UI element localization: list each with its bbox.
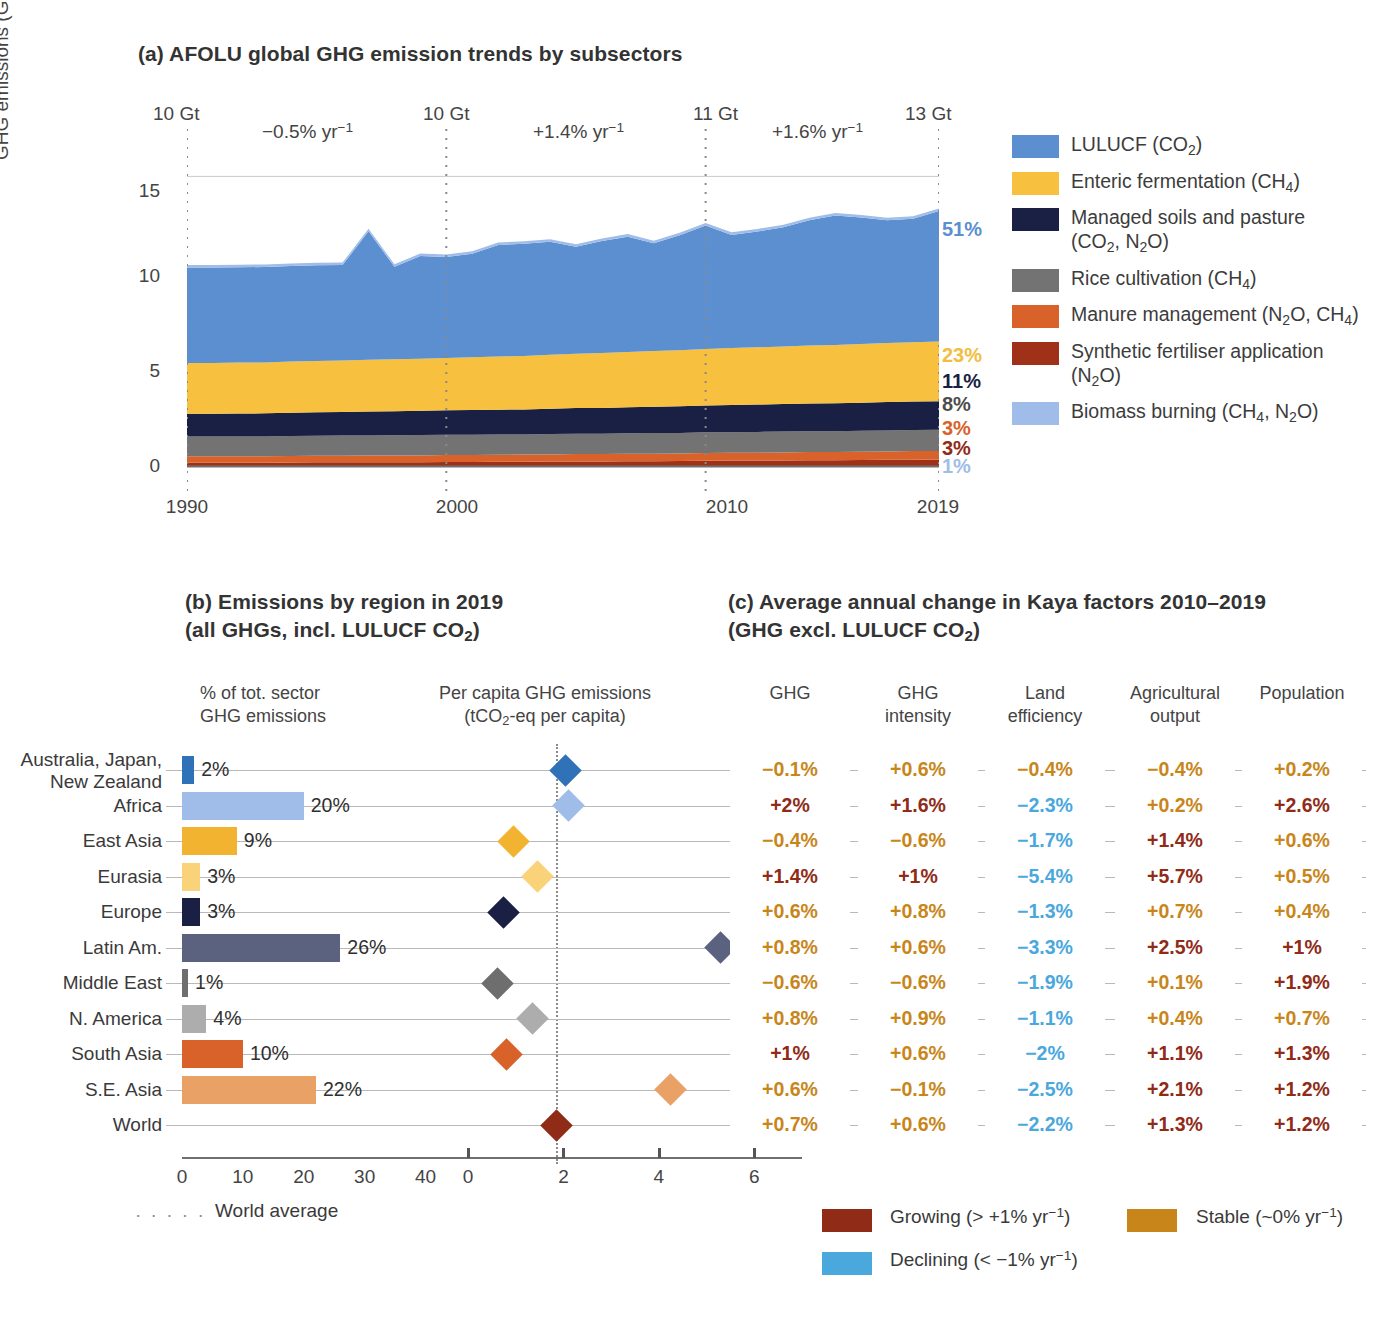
panel-a-gt-1990: 10 Gt	[153, 103, 199, 125]
share-bar	[182, 792, 304, 820]
kaya-value: +1.4%	[1115, 829, 1235, 852]
per-capita-diamond	[490, 1038, 523, 1071]
region-label: N. America	[0, 1008, 162, 1030]
share-bar	[182, 934, 340, 962]
category-legend-label: Growing (> +1% yr−1)	[890, 1205, 1070, 1228]
per-capita-diamond	[550, 754, 583, 787]
legend-item[interactable]: Biomass burning (CH4, N2O)	[1012, 400, 1392, 426]
region-label: Middle East	[0, 972, 162, 994]
region-label: S.E. Asia	[0, 1079, 162, 1101]
share-percentage: 1%	[195, 971, 223, 994]
axis-tick-mark	[562, 1148, 565, 1158]
legend-item[interactable]: Rice cultivation (CH4)	[1012, 267, 1392, 293]
panel-a-gt-2000: 10 Gt	[423, 103, 469, 125]
kaya-value: +1.9%	[1242, 971, 1362, 994]
legend-item[interactable]: Synthetic fertiliser application(N2O)	[1012, 340, 1392, 389]
panel-a-area-chart	[187, 127, 939, 497]
share-percentage-label: 23%	[942, 344, 982, 367]
region-label: Eurasia	[0, 866, 162, 888]
region-label-line: East Asia	[0, 830, 162, 852]
kaya-value: −0.6%	[858, 829, 978, 852]
legend-label: Manure management (N2O, CH4)	[1071, 303, 1359, 329]
legend-label: LULUCF (CO2)	[1071, 133, 1202, 159]
kaya-value: +2.5%	[1115, 936, 1235, 959]
kaya-value: −0.4%	[730, 829, 850, 852]
legend-swatch	[1012, 402, 1059, 425]
legend-item[interactable]: Managed soils and pasture(CO2, N2O)	[1012, 206, 1392, 255]
share-percentage: 22%	[323, 1078, 362, 1101]
share-percentage: 9%	[244, 829, 272, 852]
share-bar	[182, 969, 188, 997]
region-label-line: World	[0, 1114, 162, 1136]
kaya-value: +2.6%	[1242, 794, 1362, 817]
per-capita-diamond	[521, 860, 554, 893]
per-capita-diamond	[481, 967, 514, 1000]
kaya-value: +0.6%	[858, 936, 978, 959]
kaya-value: +1.4%	[730, 865, 850, 888]
kaya-value: +2%	[730, 794, 850, 817]
kaya-value: −1.3%	[985, 900, 1105, 923]
region-label: Latin Am.	[0, 937, 162, 959]
panel-c-title: (c) Average annual change in Kaya factor…	[728, 588, 1266, 645]
share-percentage: 10%	[250, 1042, 289, 1065]
category-legend-swatch	[822, 1209, 872, 1232]
region-label-line: Eurasia	[0, 866, 162, 888]
share-bar	[182, 1040, 243, 1068]
category-legend-swatch	[822, 1252, 872, 1275]
share-percentage: 3%	[207, 865, 235, 888]
panel-b-left-xtick: 0	[152, 1166, 212, 1188]
legend-swatch	[1012, 269, 1059, 292]
panel-b-right-xtick: 4	[629, 1166, 689, 1188]
share-percentage: 20%	[311, 794, 350, 817]
kaya-value: −0.6%	[858, 971, 978, 994]
legend-swatch	[1012, 208, 1059, 231]
per-capita-diamond	[488, 896, 521, 929]
legend-item[interactable]: Enteric fermentation (CH4)	[1012, 170, 1392, 196]
axis-tick-mark	[753, 1148, 756, 1158]
panel-b-title-line2: (all GHGs, incl. LULUCF CO2)	[185, 616, 503, 646]
panel-c-title-line2: (GHG excl. LULUCF CO2)	[728, 616, 1266, 646]
kaya-value: −0.1%	[858, 1078, 978, 1101]
kaya-value: +1.3%	[1115, 1113, 1235, 1136]
share-bar	[182, 898, 200, 926]
legend-label: Synthetic fertiliser application(N2O)	[1071, 340, 1324, 389]
panel-c-title-line1: (c) Average annual change in Kaya factor…	[728, 588, 1266, 616]
kaya-value: +1%	[858, 865, 978, 888]
share-bar	[182, 1076, 316, 1104]
legend-label: Managed soils and pasture(CO2, N2O)	[1071, 206, 1305, 255]
axis-tick-mark	[467, 1148, 470, 1158]
kaya-value: +5.7%	[1115, 865, 1235, 888]
kaya-column-header: Landefficiency	[970, 682, 1120, 727]
legend-item[interactable]: LULUCF (CO2)	[1012, 133, 1392, 159]
kaya-value: +0.6%	[858, 1042, 978, 1065]
share-bar	[182, 1005, 206, 1033]
kaya-value: +0.2%	[1115, 794, 1235, 817]
share-percentage-label: 1%	[942, 455, 971, 478]
legend-swatch	[1012, 172, 1059, 195]
per-capita-diamond	[540, 1109, 573, 1142]
category-legend-swatch	[1127, 1209, 1177, 1232]
legend-item[interactable]: Manure management (N2O, CH4)	[1012, 303, 1392, 329]
kaya-value: −0.4%	[1115, 758, 1235, 781]
kaya-value: −2.5%	[985, 1078, 1105, 1101]
legend-label: Biomass burning (CH4, N2O)	[1071, 400, 1319, 426]
panel-b-right-xtick: 2	[533, 1166, 593, 1188]
category-legend-label: Declining (< −1% yr−1)	[890, 1248, 1078, 1271]
kaya-value: +0.6%	[730, 900, 850, 923]
per-capita-diamond	[655, 1073, 688, 1106]
kaya-value: −1.1%	[985, 1007, 1105, 1030]
panel-b-col1-header: % of tot. sector GHG emissions	[200, 682, 400, 727]
region-label-line: New Zealand	[0, 771, 162, 793]
kaya-value: −2.2%	[985, 1113, 1105, 1136]
kaya-value: +0.1%	[1115, 971, 1235, 994]
kaya-column-header-l2: output	[1100, 705, 1250, 728]
share-bar	[182, 827, 237, 855]
panel-a-gt-2019: 13 Gt	[905, 103, 951, 125]
kaya-value: +0.5%	[1242, 865, 1362, 888]
panel-a-xtick-1990: 1990	[142, 496, 232, 518]
panel-a-xtick-2019: 2019	[893, 496, 983, 518]
share-percentage-label: 51%	[942, 218, 982, 241]
panel-a-ytick-0: 0	[120, 455, 160, 477]
region-label-line: Europe	[0, 901, 162, 923]
kaya-value: −1.9%	[985, 971, 1105, 994]
